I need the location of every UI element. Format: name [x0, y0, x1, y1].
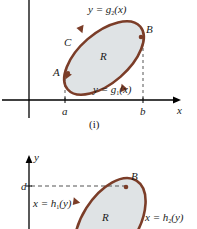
label-tick-d: d [21, 180, 27, 192]
point-a-marker [66, 71, 70, 75]
x-axis-arrowhead [173, 97, 181, 104]
label-point-b-2: B [131, 170, 138, 182]
panel-one-diagram: y = g2(x) y = g1(x) B A C R x a b (i) [0, 0, 197, 135]
label-y-axis-2: y [33, 151, 39, 163]
label-point-a: A [52, 66, 60, 78]
label-tick-a: a [62, 105, 68, 117]
label-region-r-2: R [101, 211, 109, 223]
panel-one-caption: (i) [89, 118, 100, 131]
label-upper-curve: y = g2(x) [87, 3, 127, 16]
math-figure-container: y = g2(x) y = g1(x) B A C R x a b (i) [0, 0, 197, 229]
label-x-axis: x [176, 104, 182, 116]
label-point-b: B [146, 23, 153, 35]
label-region-r: R [99, 50, 107, 62]
point-b-marker [139, 35, 144, 40]
point-b-marker-2 [124, 185, 129, 190]
label-curve-c: C [64, 36, 72, 48]
label-right-curve-2: x = h2(y) [144, 211, 184, 224]
label-tick-b: b [140, 105, 146, 117]
label-left-curve-2: x = h1(y) [32, 197, 72, 210]
curve-arrowhead-top [76, 24, 84, 33]
label-lower-curve: y = g1(x) [92, 83, 132, 96]
panel-two-diagram: d y B x = h1(y) x = h2(y) R [0, 147, 197, 229]
y-axis-arrowhead-2 [26, 155, 33, 163]
